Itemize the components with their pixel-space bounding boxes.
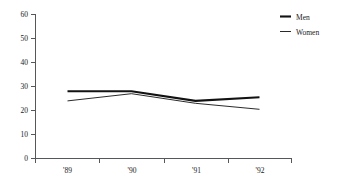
series-line-men [68,91,260,101]
legend-label-women: Women [296,28,319,37]
legend: Men Women [280,13,319,37]
y-tick-label: 10 [21,130,29,139]
y-axis-tick-labels: 60 50 40 30 20 10 0 [21,10,29,163]
y-axis-ticks [31,15,36,159]
x-tick-label: '89 [63,166,72,175]
y-tick-label: 20 [21,106,29,115]
y-tick-label: 60 [21,10,29,19]
x-axis-ticks [36,159,292,164]
x-tick-label: '91 [192,166,201,175]
line-chart: 60 50 40 30 20 10 0 '89 '90 '91 '92 [0,0,343,184]
y-tick-label: 0 [24,154,28,163]
chart-canvas: 60 50 40 30 20 10 0 '89 '90 '91 '92 [0,0,343,184]
y-tick-label: 50 [21,34,29,43]
x-tick-label: '90 [128,166,137,175]
x-axis-tick-labels: '89 '90 '91 '92 [63,166,265,175]
y-tick-label: 40 [21,58,29,67]
x-tick-label: '92 [256,166,265,175]
y-tick-label: 30 [21,82,29,91]
legend-label-men: Men [296,13,310,22]
series-group [68,91,260,109]
